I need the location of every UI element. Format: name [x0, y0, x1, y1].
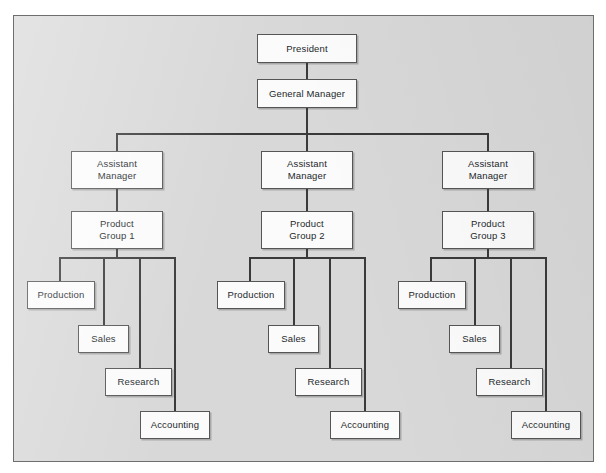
connector-bus-drop-1: [116, 133, 118, 151]
node-product-group-2-line1: Product: [289, 218, 324, 230]
node-product-group-3[interactable]: Product Group 3: [442, 211, 534, 249]
connector-bus-pg2-children: [249, 257, 366, 259]
node-research-1-label: Research: [118, 376, 160, 388]
connector-pg3-drop-sales: [474, 257, 476, 325]
connector-pg1-drop-sales: [103, 257, 105, 325]
connector-pg1-stem: [116, 249, 118, 257]
connector-pg2-drop-sales: [293, 257, 295, 325]
connector-pg3-drop-accounting: [545, 257, 547, 411]
node-assistant-manager-3-line1: Assistant: [468, 158, 508, 170]
node-assistant-manager-2-line2: Manager: [287, 170, 327, 182]
node-research-2-label: Research: [308, 376, 350, 388]
connector-president-to-gm: [306, 63, 308, 79]
node-accounting-2[interactable]: Accounting: [330, 411, 400, 439]
node-research-3[interactable]: Research: [476, 368, 543, 396]
node-production-1-label: Production: [38, 289, 85, 301]
connector-pg2-drop-accounting: [364, 257, 366, 411]
node-president[interactable]: President: [257, 34, 357, 63]
node-research-2[interactable]: Research: [295, 368, 362, 396]
node-sales-2[interactable]: Sales: [268, 325, 319, 353]
node-production-2-label: Production: [228, 289, 275, 301]
org-chart-frame: President General Manager Assistant Mana…: [13, 15, 594, 462]
node-product-group-3-line1: Product: [470, 218, 505, 230]
node-assistant-manager-1-line2: Manager: [97, 170, 137, 182]
connector-am1-to-pg1: [116, 189, 118, 211]
node-general-manager[interactable]: General Manager: [257, 79, 357, 108]
connector-pg1-drop-production: [59, 257, 61, 281]
connector-pg3-drop-production: [430, 257, 432, 281]
connector-am2-to-pg2: [306, 189, 308, 211]
node-sales-3[interactable]: Sales: [449, 325, 500, 353]
connector-bus-pg3-children: [430, 257, 547, 259]
connector-pg2-drop-production: [249, 257, 251, 281]
connector-pg2-drop-research: [329, 257, 331, 368]
node-accounting-3[interactable]: Accounting: [511, 411, 581, 439]
node-general-manager-label: General Manager: [269, 88, 345, 100]
node-research-1[interactable]: Research: [105, 368, 172, 396]
node-assistant-manager-1-line1: Assistant: [97, 158, 137, 170]
node-product-group-1[interactable]: Product Group 1: [71, 211, 163, 249]
connector-bus-pg1-children: [59, 257, 176, 259]
node-product-group-2-line2: Group 2: [289, 230, 324, 242]
node-assistant-manager-2-line1: Assistant: [287, 158, 327, 170]
node-accounting-2-label: Accounting: [341, 419, 390, 431]
node-accounting-3-label: Accounting: [522, 419, 571, 431]
connector-bus-drop-3: [487, 133, 489, 151]
connector-am3-to-pg3: [487, 189, 489, 211]
node-assistant-manager-1[interactable]: Assistant Manager: [71, 151, 163, 189]
connector-pg3-drop-research: [510, 257, 512, 368]
node-assistant-manager-2[interactable]: Assistant Manager: [261, 151, 353, 189]
node-accounting-1-label: Accounting: [151, 419, 200, 431]
connector-bus-drop-2: [306, 133, 308, 151]
node-research-3-label: Research: [489, 376, 531, 388]
node-product-group-3-line2: Group 3: [470, 230, 505, 242]
connector-pg2-stem: [306, 249, 308, 257]
node-production-3[interactable]: Production: [398, 281, 466, 309]
node-assistant-manager-3-line2: Manager: [468, 170, 508, 182]
connector-pg1-drop-accounting: [174, 257, 176, 411]
connector-gm-stem: [306, 108, 308, 133]
node-product-group-1-line2: Group 1: [99, 230, 134, 242]
node-sales-1-label: Sales: [91, 333, 116, 345]
connector-pg3-stem: [487, 249, 489, 257]
node-accounting-1[interactable]: Accounting: [140, 411, 210, 439]
node-assistant-manager-3[interactable]: Assistant Manager: [442, 151, 534, 189]
connector-bus-assistant-managers: [116, 133, 489, 135]
node-sales-2-label: Sales: [281, 333, 306, 345]
node-sales-1[interactable]: Sales: [78, 325, 129, 353]
node-product-group-1-line1: Product: [99, 218, 134, 230]
node-production-1[interactable]: Production: [27, 281, 95, 309]
node-production-2[interactable]: Production: [217, 281, 285, 309]
node-sales-3-label: Sales: [462, 333, 487, 345]
node-product-group-2[interactable]: Product Group 2: [261, 211, 353, 249]
node-production-3-label: Production: [409, 289, 456, 301]
connector-pg1-drop-research: [139, 257, 141, 368]
node-president-label: President: [286, 43, 327, 55]
